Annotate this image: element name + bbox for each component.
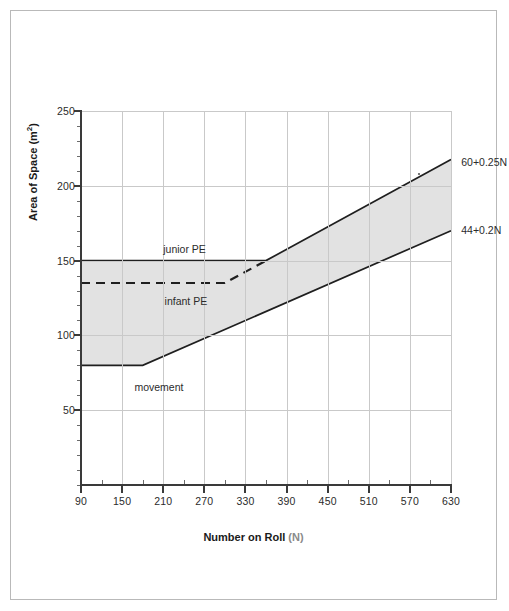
x-tick-major (368, 486, 370, 493)
y-gridline (81, 335, 451, 336)
chart-page: 9015021027033039045051057063050100150200… (0, 0, 509, 611)
x-gridline (451, 111, 452, 485)
y-axis-title-main: Area of Space (m (27, 131, 39, 221)
x-gridline (369, 111, 370, 485)
x-gridline (245, 111, 246, 485)
x-tick-major (162, 486, 164, 493)
x-gridline (328, 111, 329, 485)
x-tick-label: 150 (102, 495, 142, 507)
x-tick-major (244, 486, 246, 493)
movement-label: movement (134, 381, 183, 393)
x-tick-label: 210 (143, 495, 183, 507)
y-axis-line (80, 110, 82, 486)
x-tick-label: 270 (184, 495, 224, 507)
upper-formula-label: 60+0.25N (461, 156, 507, 168)
marker-dot (418, 173, 420, 175)
x-tick-major (203, 486, 205, 493)
x-tick-label: 390 (267, 495, 307, 507)
y-gridline (81, 186, 451, 187)
y-axis-title-close: ) (27, 123, 39, 127)
x-axis-title: Number on Roll (N) (11, 531, 496, 543)
y-gridline (81, 111, 451, 112)
y-tick-label: 150 (41, 255, 75, 267)
y-tick-label: 50 (41, 404, 75, 416)
x-tick-major (286, 486, 288, 493)
x-tick-major (121, 486, 123, 493)
y-tick-label: 100 (41, 329, 75, 341)
x-tick-label: 330 (225, 495, 265, 507)
y-gridline (81, 410, 451, 411)
x-axis-title-suffix: (N) (288, 531, 303, 543)
lower-formula-label: 44+0.2N (461, 224, 501, 236)
x-tick-major (80, 486, 82, 493)
x-axis-line (80, 484, 452, 486)
x-tick-label: 90 (61, 495, 101, 507)
x-tick-label: 570 (390, 495, 430, 507)
plot-area (81, 111, 451, 485)
x-gridline (410, 111, 411, 485)
chart-frame: 9015021027033039045051057063050100150200… (10, 10, 497, 600)
y-gridline (81, 261, 451, 262)
x-tick-major (327, 486, 329, 493)
x-tick-label: 510 (349, 495, 389, 507)
x-tick-label: 450 (308, 495, 348, 507)
infant-pe-label: infant PE (165, 295, 208, 307)
y-axis-title: Area of Space (m2) (25, 51, 39, 221)
band-graphics (81, 111, 451, 485)
x-tick-major (450, 486, 452, 493)
x-gridline (122, 111, 123, 485)
x-tick-label: 630 (431, 495, 471, 507)
y-tick-label: 250 (41, 105, 75, 117)
y-tick-label: 200 (41, 180, 75, 192)
x-tick-major (409, 486, 411, 493)
junior-pe-label: junior PE (163, 243, 206, 255)
x-axis-title-main: Number on Roll (203, 531, 285, 543)
x-gridline (287, 111, 288, 485)
y-axis-title-superscript: 2 (25, 127, 34, 131)
